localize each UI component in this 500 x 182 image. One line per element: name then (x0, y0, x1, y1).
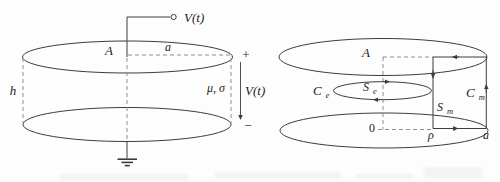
electric-surface-label-main: S (363, 80, 369, 94)
feed-wire (127, 17, 170, 57)
terminal-node-icon (171, 14, 176, 19)
magnetic-contour-label-main: C (466, 85, 475, 100)
left-capacitor-diagram: V(t) A a h μ, σ + V(t) − (10, 10, 265, 166)
magnetic-surface-label-main: S (437, 100, 443, 114)
magnetic-contour-label-sub: m (479, 92, 485, 102)
bottom-plate-ellipse-right (280, 113, 488, 148)
minus-sign: − (244, 118, 251, 133)
medium-parameters-label: μ, σ (206, 81, 226, 95)
plate-radius-label-right: a (483, 128, 489, 142)
electric-contour-ellipse (334, 82, 432, 100)
ground-icon (118, 159, 138, 165)
plate-area-label-right: A (361, 45, 370, 60)
figure-svg: V(t) A a h μ, σ + V(t) − (0, 0, 500, 182)
magnetic-surface-label: S m (437, 97, 453, 116)
electric-surface-label-sub: e (373, 86, 377, 96)
radial-coordinate-label: ρ (427, 128, 434, 142)
plate-area-label: A (104, 43, 113, 58)
separation-height-label: h (10, 83, 17, 98)
magnetic-surface-label-sub: m (447, 106, 453, 116)
capacitor-figure: V(t) A a h μ, σ + V(t) − (0, 0, 500, 182)
source-voltage-label: V(t) (184, 10, 204, 25)
plus-sign: + (242, 47, 249, 62)
electric-contour-label-main: C (313, 83, 322, 98)
plate-radius-label: a (165, 40, 171, 54)
right-contours-diagram: A C e S e (279, 39, 489, 149)
voltage-label: V(t) (245, 83, 265, 98)
page-bleed-artifacts (60, 167, 482, 180)
magnetic-contour-label: C m (466, 83, 485, 102)
origin-label: 0 (369, 121, 375, 135)
electric-contour-label: C e (313, 81, 330, 100)
electric-contour-label-sub: e (326, 90, 330, 100)
electric-surface-label: S e (363, 77, 377, 96)
